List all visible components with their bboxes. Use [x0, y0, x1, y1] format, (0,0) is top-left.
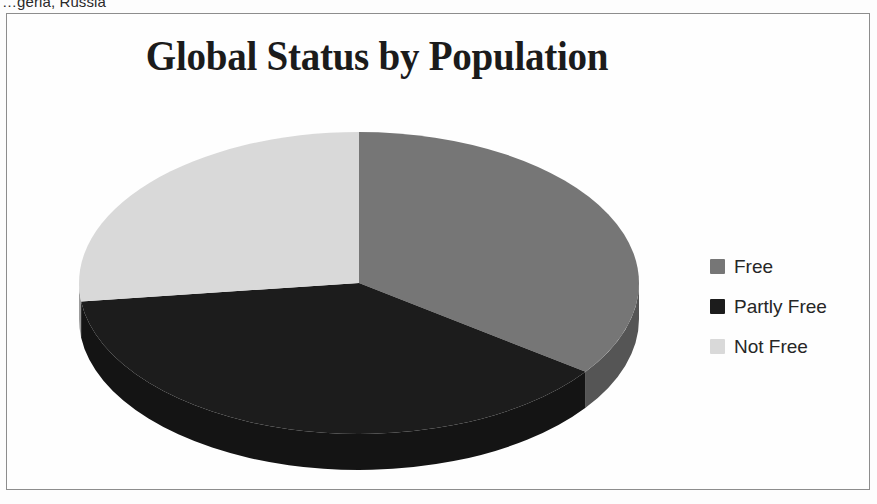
legend-item-free[interactable]: Free	[710, 246, 860, 286]
pie-slice-not-free	[79, 132, 359, 301]
chart-legend: Free Partly Free Not Free	[710, 246, 860, 366]
legend-label-partly-free: Partly Free	[734, 297, 827, 316]
legend-swatch-free-icon	[710, 259, 725, 274]
legend-swatch-partly-free-icon	[710, 299, 725, 314]
pie-chart-svg	[7, 14, 707, 491]
scan-cut-off-text: …geria, Russia	[2, 0, 106, 10]
legend-label-free: Free	[734, 257, 773, 276]
legend-label-not-free: Not Free	[734, 337, 808, 356]
legend-swatch-not-free-icon	[710, 339, 725, 354]
legend-item-partly-free[interactable]: Partly Free	[710, 286, 860, 326]
chart-frame: Global Status by Population Free Partly …	[6, 13, 870, 490]
legend-item-not-free[interactable]: Not Free	[710, 326, 860, 366]
screenshot-page: …geria, Russia Global Status by Populati…	[0, 0, 877, 504]
pie-chart-plot-area	[7, 14, 707, 491]
